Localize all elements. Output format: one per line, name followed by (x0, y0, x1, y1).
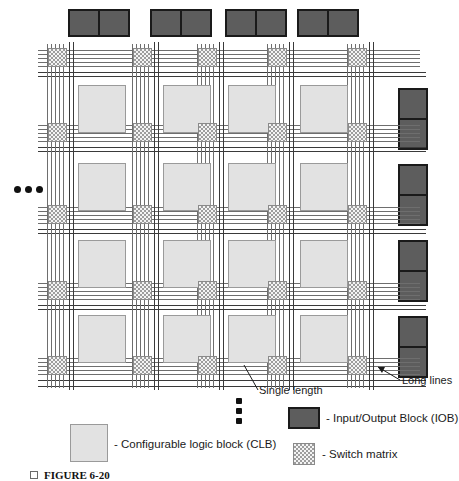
figure-canvas: Single length Long lines - Configurable … (0, 0, 459, 481)
clb-r1-c1[interactable] (78, 85, 126, 133)
legend-swatch-switch-matrix (293, 443, 315, 465)
switch-matrix-r1-c1[interactable] (48, 48, 67, 67)
iob-right-2[interactable] (398, 164, 428, 226)
clb-r2-c4[interactable] (300, 163, 348, 211)
iob-cell (400, 90, 426, 118)
switch-matrix-r3-c3[interactable] (198, 205, 217, 224)
switch-matrix-r3-c1[interactable] (48, 205, 67, 224)
iob-cell (400, 346, 426, 376)
switch-matrix-r4-c2[interactable] (133, 281, 152, 300)
routing-v-long-line (73, 42, 74, 390)
iob-top-3[interactable] (225, 9, 287, 37)
switch-matrix-r1-c2[interactable] (133, 48, 152, 67)
switch-matrix-r1-c5[interactable] (348, 48, 367, 67)
switch-matrix-r5-c5[interactable] (348, 356, 367, 375)
switch-matrix-r5-c1[interactable] (48, 356, 67, 375)
iob-cell (255, 11, 285, 35)
ellipsis-dot (25, 186, 32, 193)
switch-matrix-r4-c1[interactable] (48, 281, 67, 300)
routing-v-long-line (219, 42, 220, 390)
switch-matrix-r4-c4[interactable] (268, 281, 287, 300)
routing-v-long-line (289, 42, 290, 390)
iob-cell (400, 166, 426, 194)
routing-h-long-line (38, 309, 426, 310)
routing-h-long-line (38, 305, 426, 306)
routing-v-long-line (223, 42, 224, 390)
iob-right-3[interactable] (398, 240, 428, 302)
routing-v-long-line (373, 42, 374, 390)
left-continuation-ellipsis (14, 186, 48, 194)
clb-r2-c2[interactable] (163, 163, 211, 211)
switch-matrix-r2-c2[interactable] (133, 123, 152, 142)
switch-matrix-r5-c3[interactable] (198, 356, 217, 375)
iob-cell (400, 242, 426, 270)
iob-cell (98, 11, 128, 35)
switch-matrix-r4-c5[interactable] (348, 281, 367, 300)
ellipsis-dot (14, 186, 21, 193)
routing-v-long-line (158, 42, 159, 390)
legend-label-switch-matrix: - Switch matrix (322, 448, 397, 461)
legend-label-clb: - Configurable logic block (CLB) (114, 438, 276, 451)
switch-matrix-r2-c1[interactable] (48, 123, 67, 142)
routing-h-long-line (38, 229, 426, 230)
switch-matrix-r3-c4[interactable] (268, 205, 287, 224)
ellipsis-dot (236, 398, 242, 404)
iob-top-2[interactable] (150, 9, 212, 37)
legend-swatch-clb (70, 424, 108, 462)
routing-h-long-line (38, 233, 426, 234)
iob-cell (400, 318, 426, 346)
iob-top-1[interactable] (68, 9, 130, 37)
caption-bullet-icon (30, 471, 38, 479)
clb-r2-c3[interactable] (228, 163, 276, 211)
switch-matrix-r2-c3[interactable] (198, 123, 217, 142)
switch-matrix-r1-c3[interactable] (198, 48, 217, 67)
clb-r2-c1[interactable] (78, 163, 126, 211)
iob-right-4[interactable] (398, 316, 428, 378)
clb-r4-c1[interactable] (78, 315, 126, 363)
iob-cell (227, 11, 255, 35)
routing-h-long-line (38, 72, 426, 73)
annotation-single-length: Single length (259, 384, 323, 397)
switch-matrix-r1-c4[interactable] (268, 48, 287, 67)
iob-cell (327, 11, 357, 35)
ellipsis-dot (36, 186, 43, 193)
routing-v-long-line (154, 42, 155, 390)
clb-r3-c4[interactable] (300, 240, 348, 288)
switch-matrix-r4-c3[interactable] (198, 281, 217, 300)
iob-cell (152, 11, 180, 35)
routing-h-long-line (38, 76, 426, 77)
clb-r4-c4[interactable] (300, 315, 348, 363)
switch-matrix-r5-c2[interactable] (133, 356, 152, 375)
routing-v-long-line (69, 42, 70, 390)
switch-matrix-r3-c2[interactable] (133, 205, 152, 224)
iob-cell (180, 11, 210, 35)
bottom-continuation-ellipsis (236, 398, 244, 428)
iob-cell (290, 409, 318, 427)
annotation-long-lines: Long lines (402, 374, 452, 387)
iob-top-4[interactable] (297, 9, 359, 37)
routing-v-long-line (369, 42, 370, 390)
routing-h-long-line (38, 386, 426, 387)
routing-h-long-line (38, 380, 426, 381)
clb-r1-c4[interactable] (300, 85, 348, 133)
clb-r3-c1[interactable] (78, 240, 126, 288)
ellipsis-dot (236, 418, 242, 424)
routing-h-long-line (38, 151, 426, 152)
routing-h-long-line (38, 147, 426, 148)
iob-cell (70, 11, 98, 35)
switch-matrix-r2-c4[interactable] (268, 123, 287, 142)
figure-caption: FIGURE 6-20 (44, 469, 110, 481)
legend-swatch-iob (288, 407, 320, 429)
switch-matrix-r2-c5[interactable] (348, 123, 367, 142)
routing-v-long-line (293, 42, 294, 390)
iob-cell (299, 11, 327, 35)
ellipsis-dot (236, 408, 242, 414)
switch-matrix-r3-c5[interactable] (348, 205, 367, 224)
switch-matrix-r5-c4[interactable] (268, 356, 287, 375)
legend-label-iob: - Input/Output Block (IOB) (326, 412, 458, 425)
